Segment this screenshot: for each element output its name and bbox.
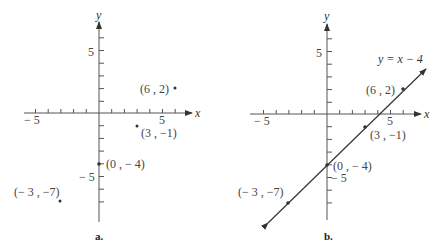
point-6-2 — [401, 87, 405, 91]
y-tick-label-neg5: − 5 — [79, 170, 95, 184]
x-tick-label-5: 5 — [387, 114, 393, 128]
panel-a: x y − 5 5 5 − 5 (6 , 2) (3 , −1) (0 , − … — [14, 8, 201, 242]
panel-caption-a: a. — [95, 230, 104, 242]
x-tick-label-5: 5 — [159, 113, 165, 127]
point-0-neg4 — [97, 162, 101, 166]
point-3-neg1 — [136, 125, 139, 128]
y-tick-label-neg5: − 5 — [331, 171, 347, 185]
panel-b: x y − 5 5 5 − 5 y = x − 4 (6 , 2) (3 , −… — [238, 9, 430, 242]
point-label-6-2: (6 , 2) — [366, 83, 395, 97]
line-equation-label: y = x − 4 — [377, 52, 423, 66]
x-tick-label-neg5: − 5 — [254, 114, 270, 128]
point-neg3-neg7 — [59, 200, 62, 203]
point-neg3-neg7 — [286, 201, 290, 205]
x-axis-label: x — [194, 106, 201, 120]
point-label-3-neg1: (3 , −1) — [141, 126, 177, 140]
y-ticks — [99, 38, 104, 202]
y-axis-label: y — [323, 9, 330, 23]
point-0-neg4 — [325, 163, 329, 167]
point-label-neg3-neg7: (− 3 , −7) — [14, 185, 60, 199]
point-label-3-neg1: (3 , −1) — [370, 128, 406, 142]
line-y-equals-x-minus-4 — [268, 69, 426, 223]
point-3-neg1 — [363, 125, 367, 129]
point-label-0-neg4: (0 , − 4) — [333, 159, 372, 173]
point-label-6-2: (6 , 2) — [140, 82, 169, 96]
x-tick-label-neg5: − 5 — [24, 113, 40, 127]
point-6-2 — [174, 87, 177, 90]
point-label-neg3-neg7: (− 3 , −7) — [238, 185, 284, 199]
y-tick-label-5: 5 — [316, 46, 322, 60]
y-axis-label: y — [95, 8, 102, 22]
x-axis-label: x — [423, 107, 430, 121]
point-label-0-neg4: (0 , − 4) — [106, 157, 145, 171]
x-ticks — [36, 109, 176, 113]
panel-caption-b: b. — [324, 230, 333, 242]
diagram-canvas: x y − 5 5 5 − 5 (6 , 2) (3 , −1) (0 , − … — [0, 0, 440, 250]
y-tick-label-5: 5 — [88, 45, 94, 59]
